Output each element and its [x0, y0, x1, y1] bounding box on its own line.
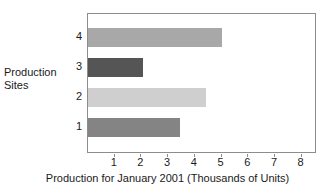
- bar-fill: [88, 58, 143, 77]
- x-axis-tick-label: 1: [105, 157, 123, 168]
- bar-fill: [88, 88, 206, 107]
- bar-fill: [88, 118, 180, 137]
- bar-site-4: [88, 28, 222, 47]
- y-axis-tick-label: 1: [68, 121, 82, 132]
- x-axis-tick-label: 7: [265, 157, 283, 168]
- bar-fill: [88, 28, 222, 47]
- bar-site-2: [88, 88, 206, 107]
- y-axis-tick-label: 2: [68, 91, 82, 102]
- x-axis-tick-labels: 12345678: [87, 154, 316, 170]
- y-axis-tick-label: 4: [68, 31, 82, 42]
- x-axis-title: Production for January 2001 (Thousands o…: [0, 172, 335, 185]
- y-axis-tick-labels: 4 3 2 1: [60, 13, 87, 153]
- bar-site-1: [88, 118, 180, 137]
- x-axis-tick-label: 4: [185, 157, 203, 168]
- bar-site-3: [88, 58, 143, 77]
- x-axis-tick-label: 3: [158, 157, 176, 168]
- x-axis-tick-label: 8: [292, 157, 310, 168]
- y-axis-tick-label: 3: [68, 61, 82, 72]
- x-axis-tick-label: 5: [212, 157, 230, 168]
- x-axis-tick-label: 6: [238, 157, 256, 168]
- bar-chart-figure: Production Sites 4 3 2 1 12345678 Produc…: [0, 0, 335, 193]
- plot-area: [87, 13, 316, 153]
- x-axis-tick-label: 2: [131, 157, 149, 168]
